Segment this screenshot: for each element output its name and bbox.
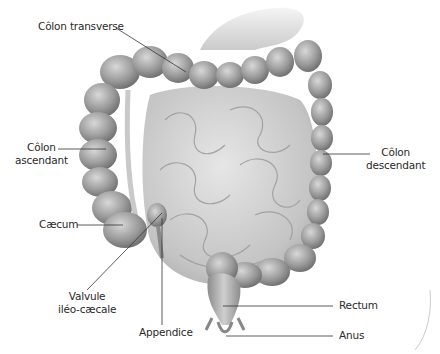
label-colon-descendant-line2: descendant xyxy=(366,159,425,172)
label-colon-ascendant: Côlon ascendant xyxy=(15,141,68,167)
ascending-colon xyxy=(79,83,138,225)
label-caecum: Cæcum xyxy=(39,218,78,231)
label-valvule: Valvule iléo-cæcale xyxy=(58,290,116,316)
label-colon-transverse: Côlon transverse xyxy=(38,20,124,33)
rectum xyxy=(207,273,240,325)
label-colon-descendant: Côlon descendant xyxy=(366,146,425,172)
label-valvule-line1: Valvule xyxy=(58,290,116,303)
label-colon-ascendant-line2: ascendant xyxy=(15,154,68,167)
page-curl xyxy=(415,290,430,350)
label-colon-ascendant-line1: Côlon xyxy=(15,141,68,154)
ileocecal-valve xyxy=(147,203,167,227)
cecum xyxy=(103,212,147,248)
label-anus: Anus xyxy=(339,329,364,342)
label-rectum: Rectum xyxy=(339,299,378,312)
stomach-shadow xyxy=(200,8,304,50)
label-valvule-line2: iléo-cæcale xyxy=(58,303,116,316)
label-appendice: Appendice xyxy=(139,326,193,339)
anatomy-diagram: Côlon transverse Côlon ascendant Cæcum V… xyxy=(0,0,440,354)
label-colon-descendant-line1: Côlon xyxy=(366,146,425,159)
